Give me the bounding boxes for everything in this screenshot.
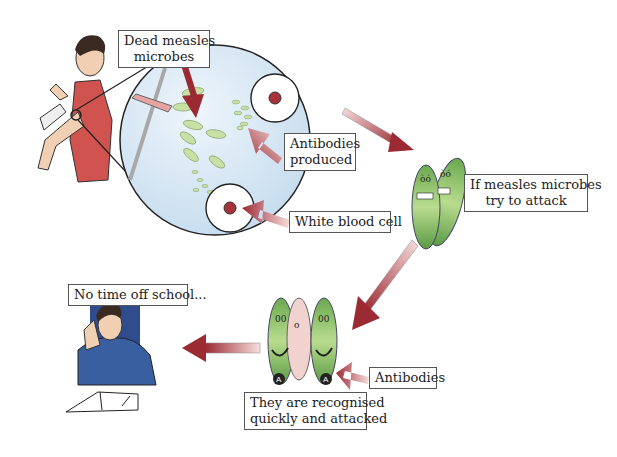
vaccinated-person-illustration <box>38 35 112 182</box>
svg-text:òó: òó <box>420 174 431 184</box>
label-dead-measles-microbes: Dead measles microbes <box>118 30 210 68</box>
flow-arrow-3 <box>182 334 260 362</box>
label-antibodies-produced: Antibodies produced <box>284 133 356 171</box>
svg-text:00: 00 <box>275 314 287 324</box>
label-no-time-off-school: No time off school... <box>68 284 188 306</box>
svg-text:00: 00 <box>318 314 330 324</box>
svg-text:òó: òó <box>440 169 451 179</box>
label-white-blood-cell: White blood cell <box>289 211 391 233</box>
flow-arrow-2 <box>352 240 418 330</box>
label-antibodies: Antibodies <box>369 367 437 389</box>
pointer-arrow-antibodies-2 <box>336 362 369 390</box>
recognised-microbes: A A 00 00 o <box>268 298 337 385</box>
label-recognised-attacked: They are recognised quickly and attacked <box>244 392 367 430</box>
white-blood-cell-top <box>251 74 299 122</box>
student-illustration <box>66 300 156 412</box>
svg-text:A: A <box>323 375 329 384</box>
svg-text:o: o <box>294 320 299 330</box>
svg-text:A: A <box>276 375 282 384</box>
label-if-measles-attack: If measles microbes try to attack <box>464 174 588 212</box>
vaccination-diagram: òó òó A A 00 00 o Dead measles <box>0 0 617 457</box>
